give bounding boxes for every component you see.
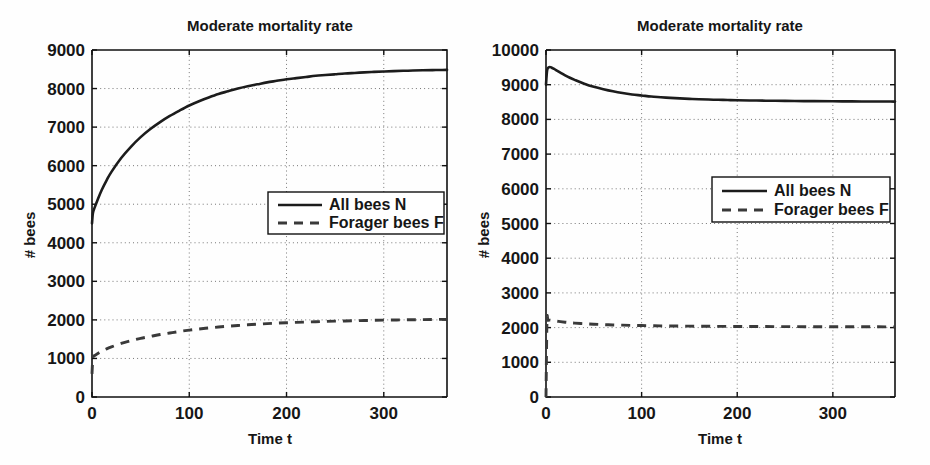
x-tick-label: 300 [370,404,398,423]
y-tick-label: 1000 [501,353,539,372]
x-tick-label: 0 [87,404,96,423]
legend-label-forager-bees-left: Forager bees F [329,214,444,231]
x-tick-label: 100 [175,404,203,423]
x-tick-label: 100 [627,404,655,423]
x-tick-label: 200 [272,404,300,423]
figure-container: Moderate mortality rate 0100020003000400… [0,0,930,465]
y-tick-label: 7000 [47,118,85,137]
chart-panel-right: Moderate mortality rate 0100020003000400… [465,0,930,465]
legend-label-all-bees-right: All bees N [774,182,851,199]
y-axis-label-left: # bees [21,212,38,259]
legend-label-forager-bees-right: Forager bees F [774,201,889,218]
y-tick-label: 5000 [501,215,539,234]
chart-title-right: Moderate mortality rate [637,17,803,34]
y-tick-label: 3000 [501,284,539,303]
chart-panel-left: Moderate mortality rate 0100020003000400… [0,0,465,465]
legend-right[interactable]: All bees N Forager bees F [712,177,890,222]
y-tick-label: 9000 [47,41,85,60]
y-tick-label: 9000 [501,76,539,95]
y-tick-label: 8000 [47,80,85,99]
y-tick-label: 2000 [501,319,539,338]
x-tick-label: 200 [723,404,751,423]
y-tick-label: 3000 [47,272,85,291]
y-tick-label: 2000 [47,311,85,330]
legend-label-all-bees-left: All bees N [329,196,406,213]
x-axis-label-right: Time t [698,430,742,447]
y-tick-label: 8000 [501,110,539,129]
y-tick-label: 10000 [492,41,539,60]
x-tick-label: 300 [819,404,847,423]
y-tick-label: 6000 [47,157,85,176]
y-tick-label: 4000 [47,234,85,253]
y-tick-label: 4000 [501,249,539,268]
x-tick-label: 0 [541,404,550,423]
y-tick-label: 5000 [47,195,85,214]
x-axis-label-left: Time t [248,430,292,447]
y-tick-label: 7000 [501,145,539,164]
y-axis-label-right: # bees [475,212,492,259]
chart-title-left: Moderate mortality rate [187,17,353,34]
y-tick-label: 0 [76,388,85,407]
y-tick-label: 6000 [501,180,539,199]
legend-left[interactable]: All bees N Forager bees F [268,192,444,234]
y-tick-label: 1000 [47,349,85,368]
y-tick-label: 0 [530,388,539,407]
